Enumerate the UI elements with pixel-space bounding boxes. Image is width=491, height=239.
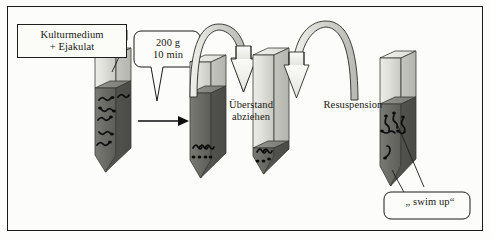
label-swim-up: „ swim up“ bbox=[392, 196, 468, 208]
label-culture-medium: Kulturmedium + Ejakulat bbox=[17, 24, 127, 58]
label-resuspension: Resuspension bbox=[318, 99, 388, 111]
label-centrifugation: 200 g 10 min bbox=[141, 34, 195, 64]
curved-arrow-resuspension bbox=[284, 21, 358, 100]
label-remove-supernatant: Überstand abziehen bbox=[219, 99, 283, 123]
tube-resuspended bbox=[380, 51, 424, 196]
straight-arrow-centrifuge bbox=[138, 116, 189, 126]
figure-canvas: Kulturmedium + Ejakulat 200 g 10 min Übe… bbox=[0, 0, 491, 239]
